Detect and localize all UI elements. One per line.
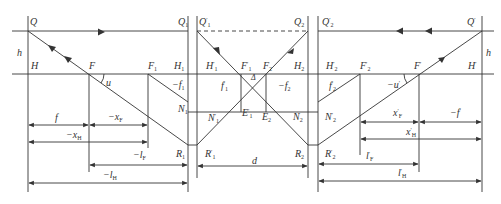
label-H: H (31, 61, 38, 71)
label-N2: N2 (293, 112, 303, 123)
label-H2-prime: H′2 (326, 61, 338, 72)
dim-neg-xH: −xH (66, 130, 82, 141)
label-F2-prime: F′2 (360, 61, 370, 72)
label-N2-prime: N′2 (325, 112, 336, 123)
label-N1-prime: N′1 (208, 113, 219, 124)
label-R2: R2 (295, 149, 304, 160)
label-Q2-prime: Q′2 (322, 17, 334, 28)
label-neg-f2: −f2 (278, 81, 291, 92)
dim-neg-xF: −xF (108, 112, 123, 123)
label-F2: F2 (263, 61, 272, 72)
dim-f: f (55, 113, 58, 123)
label-F: F (89, 61, 95, 71)
label-F-prime: F′ (414, 61, 421, 71)
label-H-prime: H′ (468, 61, 477, 71)
dim-d: d (252, 156, 257, 166)
label-Q2: Q2 (294, 17, 304, 28)
label-u: u (106, 78, 111, 88)
label-R1: R1 (176, 149, 185, 160)
label-F1: F1 (148, 61, 157, 72)
label-Q1: Q1 (178, 17, 188, 28)
label-h-right: h (486, 48, 491, 58)
dim-neg-lH: −lH (103, 170, 117, 181)
optical-diagram: Q Q1 Q′1 Q2 Q′2 Q′ h h H F u F1 H1 H′1 F… (0, 0, 501, 204)
label-H1: H1 (174, 61, 184, 72)
dim-neg-lF: −lF (133, 150, 146, 161)
label-delta: Δ (251, 74, 256, 82)
label-f1-prime: f′1 (221, 81, 228, 92)
label-Q1-prime: Q′1 (199, 17, 211, 28)
dim-lF-prime: l′F (366, 151, 373, 162)
label-E2: E2 (262, 112, 271, 123)
dim-lH-prime: l′H (398, 168, 406, 179)
label-R2-prime: R′2 (325, 149, 335, 160)
label-neg-u-prime: −u′ (387, 80, 400, 90)
label-F1-prime: F′1 (241, 61, 251, 72)
label-N1: N1 (178, 104, 188, 115)
label-R1-prime: R′1 (205, 149, 215, 160)
ray-N2p-F2p (318, 74, 360, 102)
label-H1-prime: H′1 (206, 61, 218, 72)
dim-neg-f-prime: −f′ (450, 108, 461, 118)
diagram-lines (0, 0, 501, 204)
dim-xF-prime: x′F (393, 108, 402, 119)
label-H2: H2 (294, 61, 304, 72)
label-h-left: h (17, 48, 22, 58)
label-Q: Q (30, 17, 37, 27)
label-neg-f1: −f1 (172, 80, 185, 91)
dim-xH-prime: x′H (406, 127, 416, 138)
label-Q-prime: Q′ (467, 17, 476, 27)
label-E1-prime: E′1 (242, 108, 252, 119)
label-f2-prime: f′2 (329, 81, 336, 92)
